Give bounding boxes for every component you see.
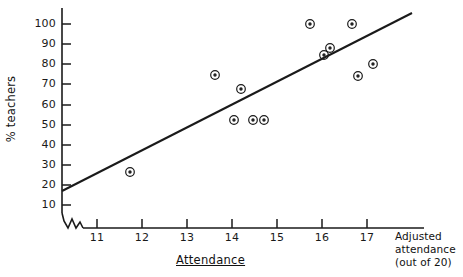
y-tick-label-100: 100: [8, 17, 56, 30]
x-axis-secondary-label-line2: attendance: [395, 243, 456, 256]
y-tick-label-10: 10: [8, 198, 56, 211]
axis-break-symbol: [62, 213, 83, 228]
x-tick-label-13: 13: [167, 231, 207, 244]
x-tick-label-17: 17: [347, 231, 387, 244]
x-axis-secondary-label: Adjusted attendance (out of 20): [395, 230, 456, 269]
x-tick-marks: [97, 219, 367, 228]
x-tick-label-16: 16: [302, 231, 342, 244]
x-axis-secondary-label-line1: Adjusted: [395, 230, 456, 243]
data-point: [348, 20, 357, 29]
y-axis-label: % teachers: [4, 73, 18, 145]
x-axis-label: Attendance: [176, 253, 245, 267]
data-point: [249, 116, 258, 125]
data-point: [211, 71, 220, 80]
data-point: [354, 72, 363, 81]
data-point: [237, 85, 246, 94]
scatter-chart-figure: 100 90 80 70 60 50 40 30 20 10 11 12 13 …: [0, 0, 463, 277]
data-points: [126, 20, 378, 177]
data-point: [260, 116, 269, 125]
x-tick-label-12: 12: [122, 231, 162, 244]
y-tick-label-20: 20: [8, 178, 56, 191]
data-point: [306, 20, 315, 29]
data-point: [230, 116, 239, 125]
data-point: [369, 60, 378, 69]
y-tick-label-80: 80: [8, 57, 56, 70]
x-tick-label-14: 14: [212, 231, 252, 244]
x-tick-label-11: 11: [77, 231, 117, 244]
y-tick-marks: [62, 24, 71, 205]
regression-line: [62, 13, 412, 191]
data-point: [326, 44, 335, 53]
y-tick-label-90: 90: [8, 37, 56, 50]
y-tick-label-30: 30: [8, 158, 56, 171]
x-axis-secondary-label-line3: (out of 20): [395, 256, 456, 269]
x-tick-label-15: 15: [257, 231, 297, 244]
data-point: [126, 168, 135, 177]
